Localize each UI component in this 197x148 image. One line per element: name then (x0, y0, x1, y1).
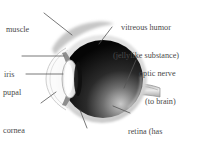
label-muscle: muscle (6, 6, 29, 53)
label-retina: retina (has light-sensitive nerve ending… (128, 108, 196, 148)
label-optic-nerve-line-2: (to brain) (145, 97, 176, 106)
label-lens: lens (88, 129, 101, 148)
label-muscle-line-1: muscle (6, 25, 29, 34)
label-pupal-line-1: pupal (3, 88, 21, 97)
label-cornea: cornea (transparent covering) (3, 107, 42, 148)
leader-muscle (44, 13, 72, 35)
label-vitreous-humor-line-1: vitreous humor (96, 23, 196, 32)
eye-anatomy-diagram: muscle vitreous humor (jellylike substan… (0, 0, 197, 148)
label-optic-nerve-line-1: optic nerve (139, 69, 176, 78)
label-retina-line-1: retina (has (128, 127, 196, 136)
pupil-shape (74, 62, 82, 96)
label-cornea-line-1: cornea (3, 126, 42, 135)
